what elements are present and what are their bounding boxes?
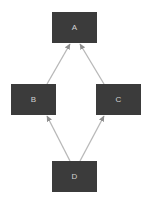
node-label-b: B [31,96,37,104]
graph-node-a[interactable]: A [52,12,97,43]
graph-node-b[interactable]: B [11,84,56,115]
graph-edge-d-b [47,116,70,161]
graph-node-d[interactable]: D [52,161,97,192]
graph-edge-b-a [47,44,70,84]
node-label-c: C [115,96,121,104]
node-label-a: A [72,24,78,32]
graph-node-c[interactable]: C [96,84,141,115]
graph-edge-d-c [80,116,104,161]
diagram-canvas: A B C D [0,0,152,203]
graph-edge-c-a [80,44,104,84]
node-label-d: D [71,173,77,181]
